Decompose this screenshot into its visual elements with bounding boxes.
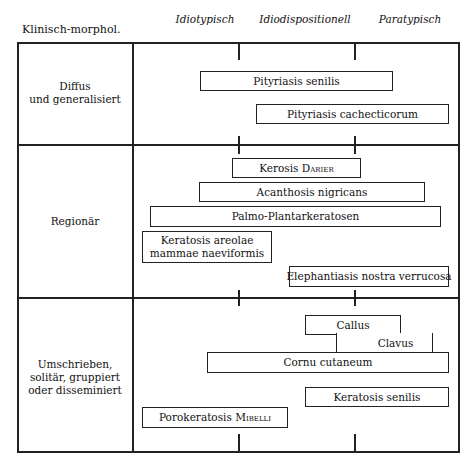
section-label-regionaer: Regionär — [17, 215, 133, 228]
bar-label: Pityriasis senilis — [253, 75, 340, 88]
range-bar-keratosis-areolae: Keratosis areolae mammae naeviformis — [142, 231, 272, 263]
bar-author: Mibelli — [235, 411, 271, 424]
label-line: Diffus — [17, 80, 133, 93]
range-bar-kerosis-darier: Kerosis Darier — [232, 158, 361, 178]
tick-idiotypisch-boundary — [238, 136, 240, 154]
range-bar-acanthosis-nigricans: Acanthosis nigricans — [199, 182, 425, 202]
tick-paratypisch-boundary — [354, 290, 356, 306]
range-bar-elephantiasis: Elephantiasis nostra verrucosa — [289, 266, 449, 287]
label-line: und generalisiert — [17, 93, 133, 106]
bar-label: Clavus — [378, 337, 414, 350]
section-label-umschrieben: Umschrieben, solitär, gruppiert oder dis… — [17, 358, 133, 397]
tick-idiotypisch-boundary — [238, 290, 240, 306]
range-bar-palmo-plantarkeratosen: Palmo-Plantarkeratosen — [150, 206, 441, 227]
label-line: Umschrieben, — [17, 358, 133, 371]
tick-paratypisch-boundary — [354, 136, 356, 154]
tick-paratypisch-boundary — [354, 43, 356, 60]
range-bar-pityriasis-senilis: Pityriasis senilis — [200, 71, 393, 91]
range-bar-pityriasis-cachecticorum: Pityriasis cachecticorum — [256, 104, 449, 124]
bar-label: Acanthosis nigricans — [257, 186, 368, 199]
tick-paratypisch-boundary — [354, 434, 356, 452]
range-bar-cornu-cutaneum: Cornu cutaneum — [207, 352, 449, 373]
bar-label: Cornu cutaneum — [283, 356, 372, 369]
label-line: solitär, gruppiert — [17, 371, 133, 384]
bar-label: mammae naeviformis — [150, 247, 264, 260]
section-label-diffus: Diffus und generalisiert — [17, 80, 133, 106]
tick-idiotypisch-boundary — [238, 43, 240, 60]
bar-label: Palmo-Plantarkeratosen — [232, 210, 360, 223]
tick-idiotypisch-boundary — [238, 434, 240, 452]
header-idiodispositionell: Idiodispositionell — [245, 13, 365, 25]
header-paratypisch: Paratypisch — [360, 13, 460, 25]
bar-label: Kerosis — [259, 162, 298, 175]
bar-label: Elephantiasis nostra verrucosa — [286, 270, 451, 283]
bar-label: Pityriasis cachecticorum — [287, 108, 418, 121]
label-line: Regionär — [17, 215, 133, 228]
header-klinisch-morphol: Klinisch-morphol. — [22, 23, 121, 36]
range-bar-clavus: Clavus — [336, 333, 433, 354]
range-bar-callus: Callus — [305, 315, 401, 335]
bar-label: Keratosis areolae — [161, 234, 254, 247]
bar-label: Callus — [336, 319, 369, 332]
header-idiotypisch: Idiotypisch — [150, 13, 260, 25]
table-right-border — [458, 42, 460, 453]
bar-label: Keratosis senilis — [334, 391, 421, 404]
range-bar-keratosis-senilis: Keratosis senilis — [305, 387, 449, 407]
bar-label: Porokeratosis — [159, 411, 232, 424]
bar-author: Darier — [302, 162, 334, 175]
range-bar-porokeratosis-mibelli: Porokeratosis Mibelli — [142, 407, 288, 428]
label-line: oder disseminiert — [17, 384, 133, 397]
